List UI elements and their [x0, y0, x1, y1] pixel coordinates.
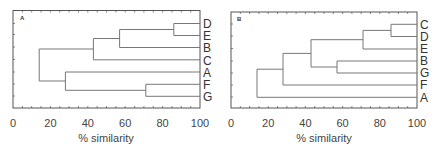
tick-label: 40 — [82, 117, 94, 129]
tick-label: 20 — [262, 117, 274, 129]
branch-c-d — [391, 24, 417, 36]
panel-b-tag: B — [237, 16, 242, 22]
tick-label: 100 — [408, 117, 426, 129]
tick-label: 0 — [228, 117, 234, 129]
tick-label: 20 — [44, 117, 56, 129]
dendrogram-figure: A D E B C A F G 0 2 — [0, 0, 443, 152]
branch-root — [39, 49, 93, 81]
branch-b-g — [337, 61, 417, 73]
branch-cdebg-f — [283, 53, 417, 85]
panel-b-branches — [257, 24, 417, 97]
panel-a-branches — [39, 24, 200, 97]
branch-d-e — [174, 24, 200, 36]
leaf-label: G — [203, 90, 212, 104]
panel-a-x-axis-title: % similarity — [78, 132, 134, 144]
tick-label: 80 — [374, 117, 386, 129]
panel-b-leaf-labels: C D E B G F A — [420, 18, 429, 105]
panel-b-ticks — [231, 12, 408, 108]
tick-label: 80 — [156, 117, 168, 129]
panel-b-x-axis-title: % similarity — [296, 132, 352, 144]
tick-label: 40 — [299, 117, 311, 129]
branch-cd-e — [363, 30, 417, 49]
tick-label: 60 — [336, 117, 348, 129]
panel-b-frame — [231, 12, 417, 108]
branch-deb-c — [93, 39, 200, 60]
panel-a-frame — [13, 11, 200, 109]
panel-a-x-tick-labels: 0 20 40 60 80 100 — [10, 117, 209, 129]
tick-label: 0 — [10, 117, 16, 129]
branch-a-fg — [65, 72, 200, 90]
panel-a-leaf-labels: D E B C A F G — [203, 17, 212, 104]
panel-b-x-tick-labels: 0 20 40 60 80 100 — [228, 117, 426, 129]
branch-f-g — [146, 84, 200, 96]
branch-de-b — [120, 30, 200, 48]
tick-label: 100 — [191, 117, 209, 129]
panel-a-tag: A — [20, 15, 25, 21]
tick-label: 60 — [119, 117, 131, 129]
panel-b: B C D E B G F A 0 20 40 — [228, 12, 429, 144]
leaf-label: A — [420, 91, 428, 105]
panel-a: A D E B C A F G 0 2 — [10, 11, 212, 145]
